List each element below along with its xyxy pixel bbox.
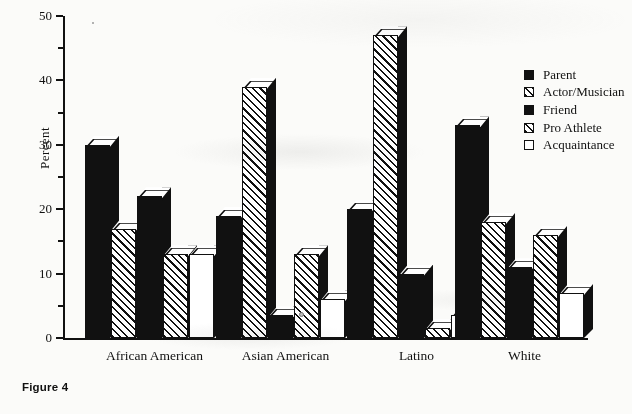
y-axis-line bbox=[63, 16, 65, 340]
y-tick-label: 50 bbox=[18, 9, 52, 22]
bar-front-face bbox=[242, 87, 267, 338]
bar-front-face bbox=[163, 254, 188, 338]
bar-front-face bbox=[533, 235, 558, 338]
y-tick-label: 40 bbox=[18, 73, 52, 86]
x-axis-label-white: White bbox=[415, 348, 632, 364]
legend-label: Actor/Musician bbox=[543, 84, 625, 100]
scan-speck bbox=[299, 312, 304, 317]
bar-front-face bbox=[85, 145, 110, 338]
legend-item-friend[interactable]: Friend bbox=[524, 101, 632, 119]
legend-swatch-icon bbox=[524, 140, 534, 150]
bar-front-face bbox=[559, 293, 584, 338]
bar-african-american-friend bbox=[137, 187, 162, 338]
bar-latino-friend bbox=[399, 265, 424, 338]
bar-front-face bbox=[111, 229, 136, 338]
bar-front-face bbox=[320, 299, 345, 338]
figure-4-bar-chart: Percent 01020304050 African AmericanAsia… bbox=[0, 0, 632, 414]
bar-latino-parent bbox=[347, 200, 372, 338]
y-tick-major bbox=[56, 273, 63, 275]
y-tick-major bbox=[56, 79, 63, 81]
bar-front-face bbox=[268, 315, 293, 338]
scan-speck bbox=[92, 22, 94, 24]
y-tick-major bbox=[56, 15, 63, 17]
bar-latino-pro-athlete bbox=[425, 319, 450, 338]
legend-item-acquaintance[interactable]: Acquaintance bbox=[524, 136, 632, 154]
bar-asian-american-friend bbox=[268, 306, 293, 338]
bar-latino-actor-musician bbox=[373, 26, 398, 338]
bar-front-face bbox=[294, 254, 319, 338]
bar-white-friend bbox=[507, 258, 532, 338]
legend-item-parent[interactable]: Parent bbox=[524, 66, 632, 84]
legend-item-pro-athlete[interactable]: Pro Athlete bbox=[524, 119, 632, 137]
figure-caption: Figure 4 bbox=[22, 381, 68, 393]
legend-swatch-icon bbox=[524, 123, 534, 133]
legend-label: Friend bbox=[543, 102, 577, 118]
bar-front-face bbox=[455, 125, 480, 338]
bar-asian-american-pro-athlete bbox=[294, 245, 319, 338]
bar-front-face bbox=[137, 196, 162, 338]
bar-front-face bbox=[373, 35, 398, 338]
legend-label: Acquaintance bbox=[543, 137, 614, 153]
bar-asian-american-actor-musician bbox=[242, 78, 267, 338]
bar-front-face bbox=[399, 274, 424, 338]
bar-front-face bbox=[507, 267, 532, 338]
y-tick-major bbox=[56, 337, 63, 339]
legend-swatch-icon bbox=[524, 105, 534, 115]
bar-white-parent bbox=[455, 116, 480, 338]
chart-legend: ParentActor/MusicianFriendPro AthleteAcq… bbox=[524, 66, 632, 154]
bar-side-face bbox=[267, 78, 276, 338]
bar-asian-american-parent bbox=[216, 207, 241, 338]
plot-area: Percent 01020304050 African AmericanAsia… bbox=[0, 0, 632, 414]
y-tick-minor bbox=[58, 240, 63, 242]
legend-swatch-icon bbox=[524, 70, 534, 80]
bar-front-face bbox=[216, 216, 241, 338]
legend-item-actor-musician[interactable]: Actor/Musician bbox=[524, 84, 632, 102]
bar-front-face bbox=[425, 328, 450, 338]
bar-white-actor-musician bbox=[481, 213, 506, 338]
y-tick-label: 10 bbox=[18, 267, 52, 280]
x-axis-line bbox=[63, 338, 588, 340]
legend-swatch-icon bbox=[524, 87, 534, 97]
bar-front-face bbox=[189, 254, 214, 338]
bar-white-pro-athlete bbox=[533, 226, 558, 338]
bar-african-american-actor-musician bbox=[111, 220, 136, 338]
bar-front-face bbox=[481, 222, 506, 338]
y-tick-label: 0 bbox=[18, 331, 52, 344]
bar-african-american-parent bbox=[85, 136, 110, 338]
y-tick-minor bbox=[58, 305, 63, 307]
legend-label: Pro Athlete bbox=[543, 120, 602, 136]
bar-african-american-pro-athlete bbox=[163, 245, 188, 338]
y-tick-label: 30 bbox=[18, 138, 52, 151]
y-tick-minor bbox=[58, 176, 63, 178]
legend-label: Parent bbox=[543, 67, 576, 83]
y-tick-major bbox=[56, 208, 63, 210]
y-tick-major bbox=[56, 144, 63, 146]
bar-african-american-acquaintance bbox=[189, 245, 214, 338]
bar-asian-american-acquaintance bbox=[320, 290, 345, 338]
bar-white-acquaintance bbox=[559, 284, 584, 338]
bar-front-face bbox=[347, 209, 372, 338]
y-tick-minor bbox=[58, 47, 63, 49]
y-tick-minor bbox=[58, 112, 63, 114]
y-tick-label: 20 bbox=[18, 202, 52, 215]
